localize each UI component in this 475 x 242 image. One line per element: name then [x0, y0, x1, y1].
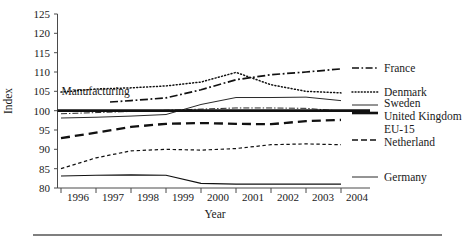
annotation-manufacturing: Manufacturing: [62, 85, 131, 98]
x-axis: 1996 1997 1998 1999 2000 2001 2002 2003 …: [58, 188, 371, 220]
x-tick-label: 1999: [172, 191, 195, 203]
series-line-sweden: [61, 97, 341, 118]
y-tick-label: 85: [39, 163, 51, 175]
y-tick-label: 105: [34, 85, 51, 97]
x-tick-label: 1996: [67, 191, 90, 203]
series-line-netherland: [61, 144, 341, 169]
legend-label-netherland[interactable]: Netherland: [384, 136, 435, 148]
legend-label-united-kingdom[interactable]: United Kingdom: [384, 110, 462, 123]
series-line-germany: [61, 175, 341, 184]
x-tick-label: 2003: [312, 191, 335, 203]
x-tick-label: 2001: [242, 191, 264, 203]
x-tick-label: 1997: [102, 191, 125, 203]
legend-label-france[interactable]: France: [384, 62, 415, 74]
legend-label-sweden[interactable]: Sweden: [384, 97, 421, 109]
y-tick-label: 125: [34, 8, 51, 20]
x-tick-label: 2004: [346, 191, 369, 203]
y-tick-label: 110: [34, 66, 51, 78]
y-axis: 125 120 115 110 105 100 95 90 85 80 Inde…: [2, 8, 58, 194]
y-tick-label: 95: [39, 124, 51, 136]
y-tick-label: 115: [34, 47, 51, 59]
y-tick-label: 120: [34, 27, 51, 39]
legend-label-germany[interactable]: Germany: [384, 171, 427, 184]
figure-container: 125 120 115 110 105 100 95 90 85 80 Inde…: [0, 0, 475, 242]
y-axis-title: Index: [2, 88, 14, 114]
x-tick-label: 2002: [277, 191, 299, 203]
y-tick-label: 90: [39, 143, 51, 155]
x-tick-label: 1998: [137, 191, 160, 203]
legend: France Denmark Sweden United Kingdom EU-…: [352, 62, 462, 184]
x-axis-title: Year: [204, 208, 225, 220]
legend-label-eu-15[interactable]: EU-15: [384, 123, 415, 135]
line-chart: 125 120 115 110 105 100 95 90 85 80 Inde…: [0, 0, 475, 242]
y-tick-label: 100: [34, 105, 51, 117]
y-axis-ticks: [54, 14, 58, 188]
x-tick-label: 2000: [207, 191, 230, 203]
y-tick-label: 80: [39, 182, 51, 194]
series-line-united-kingdom: [61, 120, 341, 138]
